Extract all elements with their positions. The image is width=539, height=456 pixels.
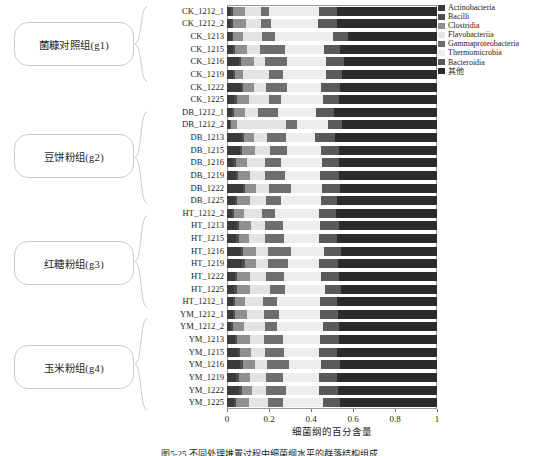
bar-segment [243,70,268,79]
bar-segment [265,158,281,167]
bar-segment [236,398,249,407]
bar-segment [337,234,437,243]
bar-row [227,171,437,180]
bar-row [227,209,437,218]
bar-segment [233,7,245,16]
bar-segment [337,297,437,306]
bar-segment [334,108,437,117]
bar-segment [321,196,337,205]
bar-segment [283,70,326,79]
bar-segment [227,398,234,407]
bar-row [227,247,437,256]
bar-segment [261,7,269,16]
bar-segment [339,95,437,104]
bar-segment [243,247,255,256]
y-axis-tick-label: YM_1212_1 [129,310,224,319]
group-box-g1: 菌糠对照组(g1) [14,22,134,66]
legend-item[interactable]: Bacteroidia [438,58,539,67]
bar-segment [277,297,320,306]
legend-swatch-icon [438,59,445,65]
bar-segment [285,285,326,294]
bar-segment [287,57,326,66]
bar-segment [328,120,343,129]
bar-segment [227,335,235,344]
y-axis-tick-label: CK_1213 [129,32,224,41]
legend-label: Actinobacteria [448,3,495,12]
bar-segment [342,120,437,129]
bar-segment [244,133,254,142]
bar-segment [275,32,333,41]
y-axis-tick-label: YM_1212_2 [129,322,224,331]
bar-segment [271,19,318,28]
group-box-g2: 豆饼粉组(g2) [14,134,134,178]
bar-segment [249,95,269,104]
bar-segment [339,221,437,230]
legend-item[interactable]: Actinobacteria [438,3,539,12]
bar-segment [243,83,254,92]
y-axis-tick-label: HT_1225 [129,285,224,294]
legend-item[interactable]: Clostridia [438,21,539,30]
bar-segment [264,335,282,344]
bar-segment [233,322,244,331]
bar-segment [316,108,334,117]
bar-segment [285,171,321,180]
legend-label: Flavobacteriia [448,30,494,39]
bar-segment [324,45,341,54]
bar-segment [233,19,246,28]
bar-segment [256,247,269,256]
bar-segment [262,32,275,41]
bar-segment [258,108,278,117]
bar-row [227,19,437,28]
legend-item[interactable]: Gammaproteobacteria [438,39,539,48]
bar-segment [235,297,245,306]
bar-segment [249,234,265,243]
legend-label: Bacilli [448,12,469,21]
bar-segment [297,120,327,129]
bar-segment [326,57,344,66]
group-box-g3: 红糖粉组(g3) [14,241,134,285]
y-axis-tick-label: YM_1222 [129,386,224,395]
bar-segment [250,335,265,344]
bar-segment [270,285,285,294]
x-axis-tick-mark [227,409,228,412]
bar-row [227,398,437,407]
bar-segment [227,386,239,395]
bar-segment [233,32,243,41]
bar-row [227,234,437,243]
y-axis-tick-label: DB_1219 [129,171,224,180]
y-axis-tick-label: DB_1215 [129,146,224,155]
bar-segment [337,7,437,16]
legend-item[interactable]: Flavobacteriia [438,30,539,39]
bar-segment [281,196,321,205]
bar-segment [227,348,238,357]
legend-swatch-icon [438,14,445,20]
bar-segment [340,83,437,92]
x-axis-tick-label: 0 [225,414,230,424]
bar-segment [247,310,264,319]
stacked-bar-plot [227,5,437,409]
bar-segment [341,247,437,256]
bar-segment [348,32,437,41]
bar-segment [237,120,285,129]
bar-segment [249,398,267,407]
legend-item[interactable]: Bacilli [438,12,539,21]
bar-segment [338,259,437,268]
x-axis-tick-label: 0.6 [347,414,358,424]
bar-segment [227,83,241,92]
bar-segment [319,234,337,243]
bar-segment [227,196,235,205]
legend: ActinobacteriaBacilliClostridiaFlavobact… [438,3,539,76]
bar-segment [250,171,265,180]
bar-segment [261,19,271,28]
bar-segment [285,45,324,54]
bar-row [227,95,437,104]
bar-segment [281,95,323,104]
y-axis-tick-label: CK_1215 [129,45,224,54]
bar-row [227,348,437,357]
bar-segment [284,348,319,357]
bar-segment [265,348,285,357]
legend-item[interactable]: 其他 [438,67,539,76]
bar-segment [237,285,250,294]
bar-segment [337,196,437,205]
legend-item[interactable]: Thermomicrobia [438,48,539,57]
